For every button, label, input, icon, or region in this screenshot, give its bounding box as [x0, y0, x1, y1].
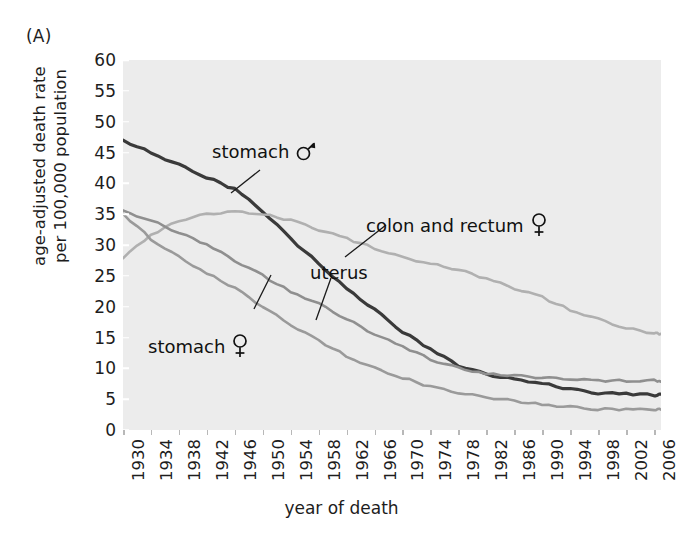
y-axis-tickmark-50 — [123, 121, 129, 123]
x-axis-tickmark-1974 — [430, 430, 432, 435]
x-axis-tick-1938: 1938 — [185, 439, 204, 481]
y-axis-tick-35: 35 — [94, 204, 116, 224]
y-axis-label-line1: age-adjusted death rate — [29, 6, 50, 326]
figure-panel-a: (A) age-adjusted death rate per 100,000 … — [0, 0, 683, 556]
y-axis-tick-0: 0 — [105, 420, 116, 440]
y-axis-tick-50: 50 — [94, 112, 116, 132]
y-axis-tick-25: 25 — [94, 266, 116, 286]
x-axis-tickmark-1998 — [598, 430, 600, 435]
annotation-stomach-female: stomach — [148, 333, 249, 359]
y-axis-tick-10: 10 — [94, 358, 116, 378]
y-axis-tick-45: 45 — [94, 143, 116, 163]
y-axis-tickmark-20 — [123, 306, 129, 308]
leader-line-uterus — [316, 278, 331, 320]
y-axis-tickmark-10 — [123, 368, 129, 370]
x-axis-tickmark-1950 — [263, 430, 265, 435]
annotation-stomach-male: stomach — [212, 140, 317, 162]
x-axis-tick-1958: 1958 — [325, 439, 344, 481]
annotation-stomach-female-label: stomach — [148, 336, 225, 357]
y-axis-tickmark-55 — [123, 90, 129, 92]
x-axis-tick-1966: 1966 — [381, 439, 400, 481]
x-axis-tick-1982: 1982 — [492, 439, 511, 481]
x-axis-tickmark-1930 — [123, 430, 125, 435]
y-axis-tick-5: 5 — [105, 389, 116, 409]
y-axis-label: age-adjusted death rate per 100,000 popu… — [29, 6, 71, 326]
x-axis-tickmark-1978 — [458, 430, 460, 435]
x-axis-label: year of death — [0, 498, 683, 518]
plot-area: 0510152025303540455055601930193419381942… — [123, 60, 661, 430]
annotation-colon-and-rectum-female: colon and rectum — [366, 212, 548, 238]
y-axis-tick-40: 40 — [94, 173, 116, 193]
y-axis-tick-15: 15 — [94, 328, 116, 348]
y-axis-tickmark-60 — [123, 59, 129, 61]
x-axis-tickmark-1946 — [235, 430, 237, 435]
x-axis-tickmark-2002 — [626, 430, 628, 435]
y-axis-tickmark-25 — [123, 275, 129, 277]
x-axis-tick-1934: 1934 — [157, 439, 176, 481]
x-axis-tick-1990: 1990 — [548, 439, 567, 481]
x-axis-tick-2006: 2006 — [660, 439, 679, 481]
y-axis-tickmark-5 — [123, 398, 129, 400]
x-axis-tickmark-1970 — [402, 430, 404, 435]
y-axis-label-line2: per 100,000 population — [50, 6, 71, 326]
annotation-colon-rectum-label: colon and rectum — [366, 215, 524, 236]
x-axis-tick-1998: 1998 — [604, 439, 623, 481]
x-axis-tickmark-1962 — [347, 430, 349, 435]
x-axis-tick-1970: 1970 — [408, 439, 427, 481]
x-axis-tickmark-2006 — [654, 430, 656, 435]
x-axis-tick-1942: 1942 — [213, 439, 232, 481]
annotation-stomach-male-label: stomach — [212, 141, 289, 162]
x-axis-tick-1930: 1930 — [129, 439, 148, 481]
x-axis-tick-1954: 1954 — [297, 439, 316, 481]
leader-line-stomach-female — [254, 275, 271, 309]
x-axis-tickmark-1982 — [486, 430, 488, 435]
x-axis-tick-2002: 2002 — [632, 439, 651, 481]
female-symbol-stomach — [231, 333, 249, 359]
x-axis-tickmark-1986 — [514, 430, 516, 435]
x-axis-tickmark-1934 — [151, 430, 153, 435]
x-axis-tick-1962: 1962 — [353, 439, 372, 481]
annotation-uterus: uterus — [310, 262, 368, 283]
x-axis-tick-1978: 1978 — [464, 439, 483, 481]
x-axis-tickmark-1954 — [291, 430, 293, 435]
x-axis-tick-1950: 1950 — [269, 439, 288, 481]
y-axis-tickmark-30 — [123, 244, 129, 246]
x-axis-tickmark-1994 — [570, 430, 572, 435]
y-axis-tickmark-15 — [123, 337, 129, 339]
x-axis-tickmark-1990 — [542, 430, 544, 435]
x-axis-tick-1986: 1986 — [520, 439, 539, 481]
y-axis-tickmark-35 — [123, 213, 129, 215]
male-symbol — [295, 140, 317, 162]
x-axis-tickmark-1966 — [375, 430, 377, 435]
x-axis-tick-1974: 1974 — [436, 439, 455, 481]
x-axis-tick-1994: 1994 — [576, 439, 595, 481]
annotation-uterus-label: uterus — [310, 262, 368, 283]
y-axis-tickmark-45 — [123, 152, 129, 154]
female-symbol-colon — [530, 212, 548, 238]
y-axis-tick-60: 60 — [94, 50, 116, 70]
x-axis-tickmark-1942 — [207, 430, 209, 435]
x-axis-tickmark-1938 — [179, 430, 181, 435]
leader-line-stomach-male — [231, 170, 260, 193]
y-axis-tick-20: 20 — [94, 297, 116, 317]
y-axis-tick-55: 55 — [94, 81, 116, 101]
x-axis-tick-1946: 1946 — [241, 439, 260, 481]
y-axis-tickmark-40 — [123, 183, 129, 185]
y-axis-tick-30: 30 — [94, 235, 116, 255]
x-axis-tickmark-1958 — [319, 430, 321, 435]
annotation-leader-lines — [123, 60, 661, 430]
